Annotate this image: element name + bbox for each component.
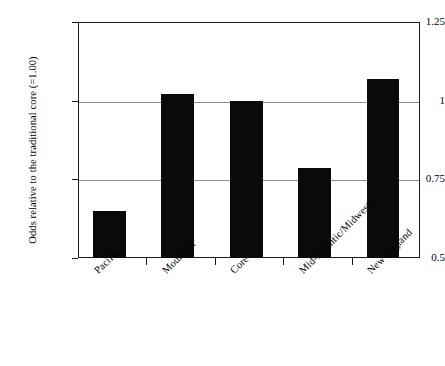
x-axis-tick-mark <box>352 258 353 265</box>
x-axis-tick-mark <box>146 258 147 265</box>
bar-chart: Odds relative to the traditional core (=… <box>0 0 445 366</box>
bars-layer <box>78 22 420 258</box>
bar-core <box>230 101 263 258</box>
y-axis-title: Odds relative to the traditional core (=… <box>24 32 42 268</box>
bar-new-england <box>367 79 400 258</box>
x-axis-tick-mark <box>215 258 216 265</box>
bar-mountain <box>161 94 194 258</box>
y-axis-tick-mark <box>72 258 78 259</box>
x-axis-tick-mark <box>283 258 284 265</box>
